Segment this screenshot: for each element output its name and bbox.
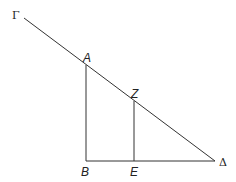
- label-b: B: [81, 165, 89, 179]
- label-e: E: [130, 165, 139, 179]
- geometry-diagram: Γ A Z B E Δ: [0, 0, 236, 182]
- label-gamma: Γ: [12, 9, 20, 22]
- label-delta: Δ: [219, 156, 227, 169]
- line-gamma-delta: [24, 18, 215, 161]
- label-z: Z: [130, 87, 139, 101]
- label-a: A: [82, 51, 91, 65]
